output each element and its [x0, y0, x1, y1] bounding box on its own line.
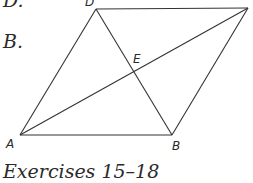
caption: Exercises 15–18 — [3, 160, 159, 182]
label-e: E — [133, 52, 141, 66]
side-bc — [172, 8, 248, 135]
diagonal-db — [96, 9, 172, 135]
side-da — [20, 9, 96, 135]
side-cd — [96, 8, 248, 9]
label-b: B — [172, 139, 180, 153]
parallelogram-diagram: D E A B — [0, 0, 253, 183]
label-d: D — [85, 0, 94, 9]
label-a: A — [5, 137, 14, 151]
